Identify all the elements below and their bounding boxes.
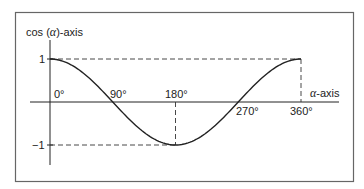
x-tick-label-180: 180° <box>165 88 188 100</box>
x-axis-label: α-axis <box>310 86 340 100</box>
x-tick-label-270: 270° <box>236 105 259 117</box>
y-axis-label: cos (α)-axis <box>26 25 84 39</box>
x-tick-label-90: 90° <box>110 88 127 100</box>
y-tick-label-1: 1 <box>39 53 45 65</box>
x-tick-label-360: 360° <box>290 105 313 117</box>
y-tick-label-minus-1: −1 <box>32 139 45 151</box>
cosine-diagram: cos (α)-axis α-axis 1 −1 0° 90° 180° 270… <box>0 0 364 189</box>
x-tick-label-0: 0° <box>54 88 65 100</box>
